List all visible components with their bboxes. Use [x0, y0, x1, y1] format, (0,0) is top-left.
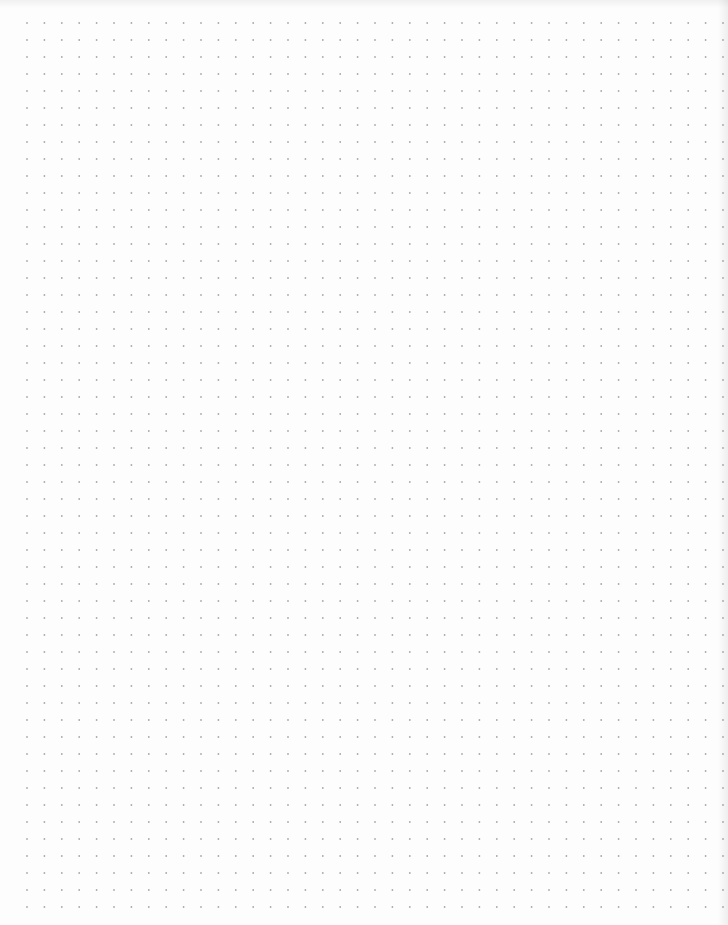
grid-dot	[444, 498, 446, 500]
grid-dot	[165, 328, 167, 330]
grid-dot	[78, 481, 80, 483]
grid-dot	[96, 770, 98, 772]
grid-dot	[113, 345, 115, 347]
grid-dot	[461, 379, 463, 381]
grid-dot	[392, 889, 394, 891]
grid-dot	[165, 821, 167, 823]
grid-dot	[165, 872, 167, 874]
grid-dot	[444, 515, 446, 517]
grid-dot	[479, 107, 481, 109]
grid-dot	[548, 617, 550, 619]
grid-dot	[148, 753, 150, 755]
grid-dot	[513, 889, 515, 891]
grid-dot	[131, 600, 133, 602]
grid-dot	[148, 209, 150, 211]
grid-dot	[165, 889, 167, 891]
grid-dot	[287, 753, 289, 755]
grid-dot	[113, 294, 115, 296]
grid-dot	[705, 39, 707, 41]
grid-dot	[287, 362, 289, 364]
grid-dot	[200, 770, 202, 772]
grid-dot	[392, 685, 394, 687]
grid-dot	[252, 481, 254, 483]
grid-dot	[61, 617, 63, 619]
grid-dot	[374, 753, 376, 755]
grid-dot	[305, 889, 307, 891]
grid-dot	[583, 158, 585, 160]
grid-dot	[235, 804, 237, 806]
grid-dot	[531, 515, 533, 517]
grid-dot	[618, 634, 620, 636]
grid-dot	[531, 685, 533, 687]
grid-dot	[687, 345, 689, 347]
grid-dot	[78, 90, 80, 92]
grid-dot	[496, 328, 498, 330]
grid-dot	[705, 498, 707, 500]
grid-dot	[600, 617, 602, 619]
grid-dot	[583, 464, 585, 466]
grid-dot	[131, 447, 133, 449]
grid-dot	[566, 192, 568, 194]
grid-dot	[479, 838, 481, 840]
grid-dot	[339, 549, 341, 551]
grid-dot	[409, 464, 411, 466]
grid-dot	[426, 413, 428, 415]
grid-dot	[61, 328, 63, 330]
grid-dot	[96, 821, 98, 823]
grid-dot	[218, 838, 220, 840]
grid-dot	[165, 107, 167, 109]
grid-dot	[218, 566, 220, 568]
grid-dot	[618, 736, 620, 738]
grid-dot	[165, 226, 167, 228]
grid-dot	[705, 770, 707, 772]
grid-dot	[26, 39, 28, 41]
grid-dot	[548, 90, 550, 92]
grid-dot	[270, 651, 272, 653]
grid-dot	[531, 736, 533, 738]
grid-dot	[200, 90, 202, 92]
grid-dot	[252, 498, 254, 500]
grid-dot	[426, 566, 428, 568]
grid-dot	[148, 379, 150, 381]
grid-dot	[600, 39, 602, 41]
grid-dot	[305, 328, 307, 330]
grid-dot	[392, 855, 394, 857]
grid-dot	[131, 804, 133, 806]
grid-dot	[305, 379, 307, 381]
grid-dot	[339, 328, 341, 330]
grid-dot	[113, 328, 115, 330]
grid-dot	[78, 515, 80, 517]
grid-dot	[148, 345, 150, 347]
grid-dot	[635, 22, 637, 24]
grid-dot	[131, 651, 133, 653]
grid-dot	[670, 90, 672, 92]
grid-dot	[183, 141, 185, 143]
grid-dot	[392, 872, 394, 874]
grid-dot	[218, 158, 220, 160]
grid-dot	[687, 668, 689, 670]
grid-dot	[252, 464, 254, 466]
grid-dot	[131, 158, 133, 160]
grid-dot	[670, 328, 672, 330]
grid-dot	[218, 90, 220, 92]
grid-dot	[653, 770, 655, 772]
grid-dot	[44, 515, 46, 517]
grid-dot	[148, 396, 150, 398]
grid-dot	[444, 651, 446, 653]
grid-dot	[96, 90, 98, 92]
grid-dot	[131, 583, 133, 585]
grid-dot	[479, 345, 481, 347]
grid-dot	[531, 838, 533, 840]
grid-dot	[392, 583, 394, 585]
grid-dot	[392, 804, 394, 806]
grid-dot	[287, 345, 289, 347]
grid-dot	[78, 600, 80, 602]
grid-dot	[531, 413, 533, 415]
grid-dot	[635, 736, 637, 738]
grid-dot	[218, 481, 220, 483]
grid-dot	[270, 413, 272, 415]
grid-dot	[357, 141, 359, 143]
grid-dot	[409, 430, 411, 432]
grid-dot	[705, 804, 707, 806]
grid-dot	[96, 889, 98, 891]
